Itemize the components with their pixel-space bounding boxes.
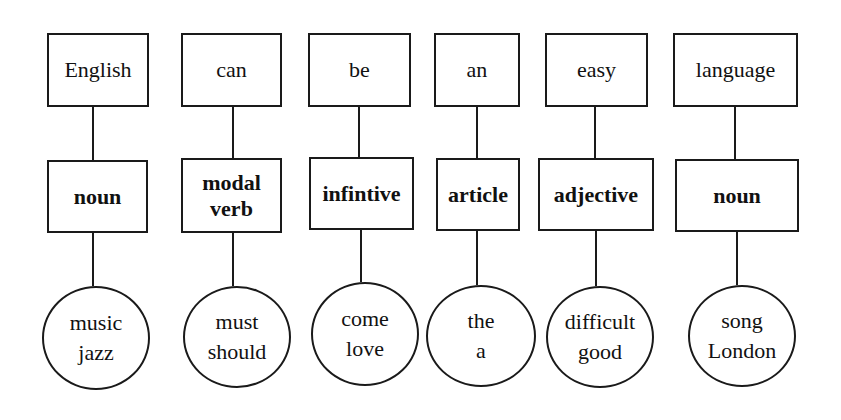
word-class-diagram: English noun music jazz can modal verb m… [0,0,841,420]
part-of-speech-label: article [448,182,508,207]
example-word: come [341,304,389,334]
example-word: the [468,306,495,336]
part-of-speech-label: adjective [554,182,638,207]
example-circle: difficult good [546,286,654,388]
part-of-speech-box: infintive [309,157,414,230]
word-label: an [467,57,488,82]
part-of-speech-label: infintive [322,181,400,206]
connector-line [232,107,234,158]
connector-line [358,107,360,157]
part-of-speech-label: noun [74,184,122,209]
example-circle: music jazz [42,286,150,390]
word-label: English [64,57,131,82]
part-of-speech-label-line2: verb [210,196,253,221]
word-box: language [673,33,798,107]
connector-line [476,231,478,285]
connector-line [594,107,596,158]
example-word: a [476,336,486,366]
part-of-speech-box: article [436,158,520,231]
word-label: can [216,57,247,82]
word-box: be [308,33,411,107]
part-of-speech-box: noun [47,160,148,233]
connector-line [595,231,597,286]
part-of-speech-label: noun [713,183,761,208]
connector-line [92,107,94,160]
word-label: language [696,57,775,82]
example-word: must [216,307,259,337]
connector-line [232,233,234,286]
word-box: can [181,33,282,107]
example-word: music [70,308,123,338]
word-box: English [47,33,149,107]
example-circle: song London [688,285,796,387]
part-of-speech-label-line1: modal [202,170,261,195]
part-of-speech-box: noun [675,159,799,232]
example-word: London [708,336,776,366]
word-label: easy [577,57,616,82]
word-box: easy [545,33,648,107]
connector-line [92,233,94,286]
connector-line [734,107,736,159]
example-word: jazz [78,338,113,368]
example-word: love [346,334,384,364]
connector-line [360,230,362,282]
example-word: song [721,306,763,336]
part-of-speech-box: adjective [538,158,654,231]
example-circle: the a [426,285,536,387]
connector-line [736,232,738,285]
word-label: be [349,57,370,82]
word-box: an [434,33,520,107]
example-word: difficult [565,307,635,337]
example-word: should [208,337,267,367]
example-circle: come love [311,282,419,386]
connector-line [476,107,478,158]
example-word: good [578,337,622,367]
example-circle: must should [183,286,291,388]
part-of-speech-box: modal verb [181,158,282,233]
